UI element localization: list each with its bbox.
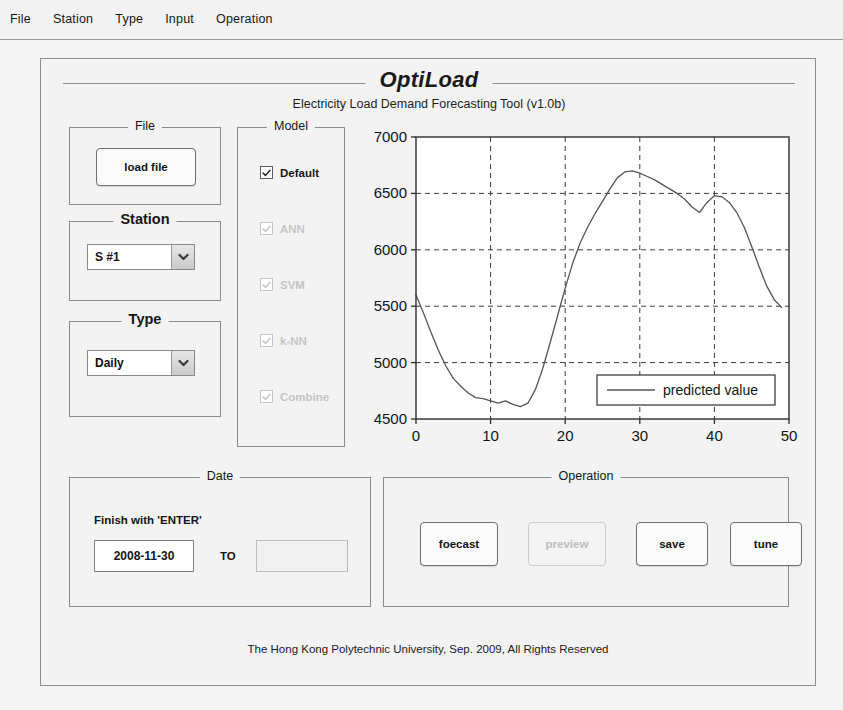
menu-item-list: File Station Type Input Operation (8, 11, 275, 27)
type-select[interactable]: Daily (87, 350, 195, 376)
station-selected-value: S #1 (88, 250, 171, 264)
svg-text:5000: 5000 (374, 354, 407, 371)
file-groupbox: File load file (69, 127, 221, 205)
save-button[interactable]: save (636, 522, 708, 566)
svg-text:7000: 7000 (374, 128, 407, 145)
model-checkbox-svm[interactable]: SVM (260, 278, 305, 291)
type-group-title: Type (122, 311, 169, 327)
model-checkbox-ann[interactable]: ANN (260, 222, 305, 235)
station-group-title: Station (113, 211, 176, 227)
checkbox-checked-icon (260, 166, 273, 179)
menu-item-type[interactable]: Type (113, 11, 145, 27)
svg-text:6500: 6500 (374, 184, 407, 201)
station-groupbox: Station S #1 (69, 221, 221, 301)
chart-canvas: 45005000550060006500700001020304050predi… (361, 127, 801, 457)
svg-text:4500: 4500 (374, 410, 407, 427)
application-panel: OptiLoad Electricity Load Demand Forecas… (40, 58, 816, 686)
model-label-combine: Combine (280, 391, 329, 403)
model-checkbox-knn[interactable]: k-NN (260, 334, 307, 347)
model-label-svm: SVM (280, 279, 305, 291)
date-hint-label: Finish with 'ENTER' (94, 514, 202, 526)
file-group-title: File (128, 119, 162, 133)
menu-item-station[interactable]: Station (51, 11, 95, 27)
page-title: OptiLoad (366, 67, 493, 93)
model-label-default: Default (280, 167, 319, 179)
footer-copyright: The Hong Kong Polytechnic University, Se… (248, 643, 609, 655)
date-group-title: Date (200, 469, 240, 483)
date-separator-label: TO (220, 550, 236, 562)
menu-item-input[interactable]: Input (163, 11, 196, 27)
svg-text:20: 20 (557, 427, 574, 444)
model-groupbox: Model Default ANN SVM k-NN (237, 127, 345, 447)
menu-item-operation[interactable]: Operation (214, 11, 275, 27)
svg-text:6000: 6000 (374, 241, 407, 258)
svg-text:10: 10 (482, 427, 499, 444)
station-select[interactable]: S #1 (87, 244, 195, 270)
date-groupbox: Date Finish with 'ENTER' 2008-11-30 TO (69, 477, 371, 607)
model-checkbox-combine[interactable]: Combine (260, 390, 329, 403)
forecast-chart: 45005000550060006500700001020304050predi… (361, 127, 801, 457)
chart-legend: predicted value (597, 375, 775, 405)
date-start-input[interactable]: 2008-11-30 (94, 540, 194, 572)
date-end-input[interactable] (256, 540, 348, 572)
menu-item-file[interactable]: File (8, 11, 33, 27)
load-file-button[interactable]: load file (96, 148, 196, 186)
svg-text:5500: 5500 (374, 297, 407, 314)
operation-groupbox: Operation foecast preview save tune (383, 477, 789, 607)
checkbox-checked-icon (260, 278, 273, 291)
svg-text:50: 50 (781, 427, 798, 444)
tune-button[interactable]: tune (730, 522, 802, 566)
type-groupbox: Type Daily (69, 321, 221, 417)
svg-text:30: 30 (631, 427, 648, 444)
svg-text:predicted value: predicted value (663, 382, 758, 398)
model-checkbox-default[interactable]: Default (260, 166, 319, 179)
operation-group-title: Operation (552, 469, 621, 483)
checkbox-checked-icon (260, 222, 273, 235)
svg-text:0: 0 (412, 427, 420, 444)
menu-bar: File Station Type Input Operation (0, 0, 843, 40)
app-header: OptiLoad Electricity Load Demand Forecas… (41, 61, 817, 119)
page-subtitle: Electricity Load Demand Forecasting Tool… (293, 97, 566, 111)
model-label-knn: k-NN (280, 335, 307, 347)
checkbox-checked-icon (260, 390, 273, 403)
chevron-down-icon[interactable] (171, 351, 194, 375)
model-label-ann: ANN (280, 223, 305, 235)
type-selected-value: Daily (88, 356, 171, 370)
preview-button[interactable]: preview (528, 522, 606, 566)
chevron-down-icon[interactable] (171, 245, 194, 269)
checkbox-checked-icon (260, 334, 273, 347)
forecast-button[interactable]: foecast (420, 522, 498, 566)
svg-text:40: 40 (706, 427, 723, 444)
model-group-title: Model (267, 119, 315, 133)
